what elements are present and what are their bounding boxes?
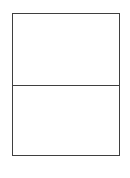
scan-noise [0, 159, 130, 168]
upper-cell-content [13, 14, 119, 85]
lower-cell-content [13, 86, 119, 155]
table-row[interactable] [13, 86, 119, 155]
two-row-table [12, 13, 120, 156]
table-row[interactable] [13, 14, 119, 86]
page-surface [0, 0, 130, 178]
